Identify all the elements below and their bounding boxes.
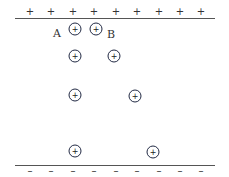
negative-sign: – bbox=[135, 166, 140, 176]
point-label-b: B bbox=[107, 29, 115, 40]
negative-sign: – bbox=[199, 166, 204, 176]
negative-sign: – bbox=[71, 166, 76, 176]
positive-charge-icon: + bbox=[129, 90, 142, 103]
positive-charge-icon: + bbox=[90, 23, 103, 36]
charge-trajectory-diagram: +++++++++–––––––––++++++++AB bbox=[0, 0, 229, 177]
positive-sign: + bbox=[155, 7, 163, 17]
positive-charge-icon: + bbox=[108, 50, 121, 63]
point-label-a: A bbox=[53, 28, 61, 39]
positive-sign: + bbox=[47, 7, 55, 17]
positive-sign: + bbox=[197, 7, 205, 17]
positive-charge-icon: + bbox=[69, 89, 82, 102]
positive-sign: + bbox=[176, 7, 184, 17]
negative-sign: – bbox=[114, 166, 119, 176]
negative-sign: – bbox=[178, 166, 183, 176]
positive-charge-icon: + bbox=[147, 146, 160, 159]
top-plate-line bbox=[15, 18, 215, 19]
positive-sign: + bbox=[112, 7, 120, 17]
positive-charge-icon: + bbox=[69, 50, 82, 63]
positive-charge-icon: + bbox=[69, 145, 82, 158]
positive-sign: + bbox=[69, 7, 77, 17]
negative-sign: – bbox=[92, 166, 97, 176]
negative-sign: – bbox=[157, 166, 162, 176]
positive-sign: + bbox=[133, 7, 141, 17]
positive-charge-icon: + bbox=[69, 23, 82, 36]
negative-sign: – bbox=[28, 166, 33, 176]
positive-sign: + bbox=[90, 7, 98, 17]
positive-sign: + bbox=[26, 7, 34, 17]
negative-sign: – bbox=[49, 166, 54, 176]
